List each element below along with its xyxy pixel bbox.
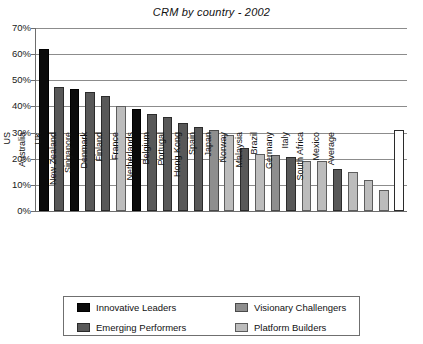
legend-swatch-icon [77,323,90,332]
y-axis-tick-label: 50% [1,74,31,85]
x-axis-tick-label: Germany [262,132,276,212]
x-axis-tick-label: Denmark [77,132,91,212]
x-axis-tick-label: Italy [278,132,292,212]
x-axis-tick-label: Japan [201,132,215,212]
bar [379,190,389,211]
x-axis-tick-label: Norway [216,132,230,212]
legend-label: Platform Builders [254,322,326,333]
x-axis-tick-label: France [108,132,122,212]
x-axis-tick-label: Portugal [154,132,168,212]
y-axis-tick-label: 70% [1,22,31,33]
x-axis-tick-label: Australia [15,132,29,212]
legend-item: Visionary Challengers [222,302,361,313]
x-axis-tick-label: Average [324,132,338,212]
bar [364,180,374,211]
legend-label: Visionary Challengers [254,302,346,313]
legend-swatch-icon [235,323,248,332]
x-axis-tick-label: Brazil [247,132,261,212]
chart-title: CRM by country - 2002 [0,6,423,18]
chart-legend: Innovative LeadersVisionary ChallengersE… [63,296,360,336]
y-axis-tick [31,106,36,107]
legend-item: Emerging Performers [64,322,222,333]
y-axis-tick [31,159,36,160]
legend-item: Innovative Leaders [64,302,222,313]
y-axis-tick-label: 40% [1,100,31,111]
y-axis-tick [31,80,36,81]
x-axis-tick-label: Netherlands [123,132,137,212]
x-axis-tick-label: Finland [92,132,106,212]
y-axis-tick [31,28,36,29]
legend-label: Innovative Leaders [96,302,176,313]
y-axis-tick-label: 60% [1,48,31,59]
legend-swatch-icon [235,303,248,312]
y-axis-tick [31,54,36,55]
x-axis-tick-label: Spain [185,132,199,212]
x-axis-tick-label: Malaysia [232,132,246,212]
legend-label: Emerging Performers [96,322,186,333]
crm-by-country-chart: CRM by country - 2002 70%60%50%40%30%20%… [0,0,423,344]
x-axis-tick-label: Hong Kong [170,132,184,212]
bar [348,172,358,211]
x-axis-tick-label: Belgium [139,132,153,212]
x-axis-tick-label: US [0,132,14,212]
bar [394,130,404,211]
y-axis-tick [31,211,36,212]
y-axis-tick [31,133,36,134]
y-axis-tick [31,185,36,186]
x-axis-tick-label: New Zealand [46,132,60,212]
legend-swatch-icon [77,303,90,312]
x-axis-labels: CanadaIrelandUSAustraliaUKNew ZealandSin… [36,212,407,296]
x-axis-tick-label: Mexico [309,132,323,212]
x-axis-tick-label: UK [31,132,45,212]
legend-item: Platform Builders [222,322,361,333]
x-axis-tick-label: Singapore [61,132,75,212]
x-axis-tick-label: South Africa [293,132,307,212]
